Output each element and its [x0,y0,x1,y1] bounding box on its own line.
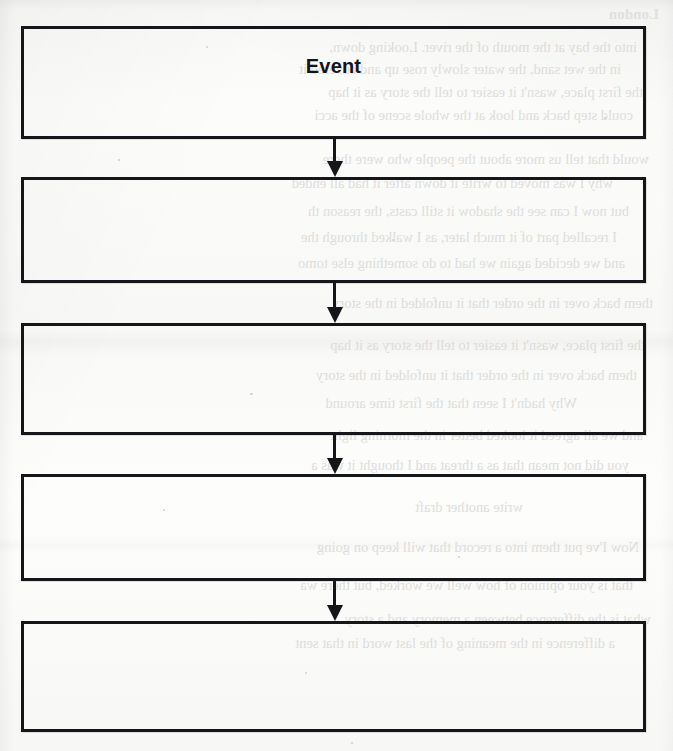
flowchart-arrow-down-icon [327,581,343,621]
arrow-shaft [333,139,336,162]
flowchart-box-2[interactable] [21,177,646,283]
flowchart-arrow-down-icon [327,435,343,474]
arrow-head [327,458,343,474]
arrow-head [327,605,343,621]
arrow-shaft [333,283,336,308]
flowchart-arrow-down-icon [327,139,343,177]
flowchart-box-4[interactable] [21,474,646,581]
scanned-worksheet-page: London into the bay at the mouth of the … [0,0,673,751]
sequence-flowchart: Event [0,0,673,751]
flowchart-arrow-down-icon [327,283,343,323]
arrow-head [327,307,343,323]
arrow-shaft [333,435,336,459]
flowchart-box-5[interactable] [21,621,646,732]
flowchart-box-3[interactable] [21,323,646,435]
arrow-head [327,161,343,177]
flowchart-box-1[interactable]: Event [21,26,646,139]
flowchart-box-1-label: Event [24,55,643,78]
arrow-shaft [333,581,336,606]
